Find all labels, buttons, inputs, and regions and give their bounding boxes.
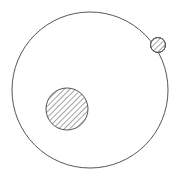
orbiting-body-hatch <box>151 38 166 53</box>
central-body <box>46 88 88 130</box>
orbit-circle <box>12 12 168 168</box>
orbit-diagram <box>0 0 180 174</box>
